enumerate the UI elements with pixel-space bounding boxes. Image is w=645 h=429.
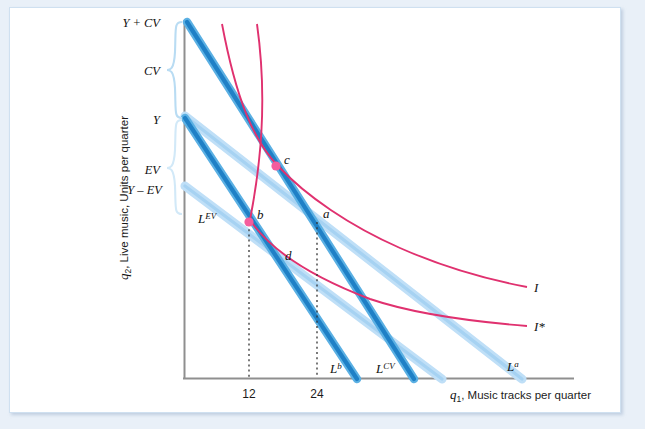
label-L-CV-base: L: [375, 361, 383, 376]
point-c-marker[interactable]: [271, 161, 280, 170]
label-curve-I: I: [533, 280, 539, 295]
point-label-b: b: [257, 207, 264, 222]
label-curve-I-star: I*: [533, 319, 545, 334]
x-axis-title-text: , Music tracks per quarter: [461, 389, 591, 401]
x-axis-ticks: 12 24: [242, 387, 324, 401]
x-tick-12: 12: [242, 387, 256, 401]
point-label-c: c: [284, 152, 290, 167]
y-axis-title-text: , Live music, Units per quarter: [118, 116, 130, 269]
y-mark-y-minus-ev: Y – EV: [127, 183, 163, 197]
y-mark-ev: EV: [144, 163, 162, 177]
y-axis-title-group: q2, Live music, Units per quarter: [116, 116, 133, 280]
point-label-a: a: [323, 206, 330, 221]
brace-cv: [167, 22, 182, 118]
label-L-EV: LEV: [197, 211, 218, 226]
label-L-b-sup: b: [337, 361, 342, 371]
label-L-b-base: L: [329, 361, 337, 376]
point-label-d: d: [285, 248, 292, 263]
x-axis-title-group: q1, Music tracks per quarter: [450, 387, 591, 404]
plot-surface: Y + CV CV Y EV Y – EV q2, Live music, Un…: [10, 8, 620, 412]
label-L-a-base: L: [506, 359, 514, 374]
point-b-marker[interactable]: [244, 217, 253, 226]
figure-frame: Y + CV CV Y EV Y – EV q2, Live music, Un…: [9, 7, 621, 413]
budget-line-La: [185, 116, 522, 379]
label-L-CV-sup: CV: [383, 361, 396, 371]
x-tick-24: 24: [310, 387, 324, 401]
label-L-EV-base: L: [197, 211, 205, 226]
y-mark-y-plus-cv: Y + CV: [122, 16, 161, 30]
budget-line-LCV: [187, 22, 414, 379]
y-mark-cv: CV: [144, 64, 161, 78]
label-L-EV-sup: EV: [204, 211, 217, 221]
y-mark-y: Y: [153, 113, 162, 127]
label-L-b: Lb: [329, 361, 342, 376]
economics-diagram: Y + CV CV Y EV Y – EV q2, Live music, Un…: [10, 8, 620, 412]
label-L-a-sup: a: [514, 359, 519, 369]
brace-ev: [167, 120, 182, 214]
svg-text:q2, Live music, Units per quar: q2, Live music, Units per quarter: [116, 116, 133, 280]
label-L-CV: LCV: [375, 361, 396, 376]
